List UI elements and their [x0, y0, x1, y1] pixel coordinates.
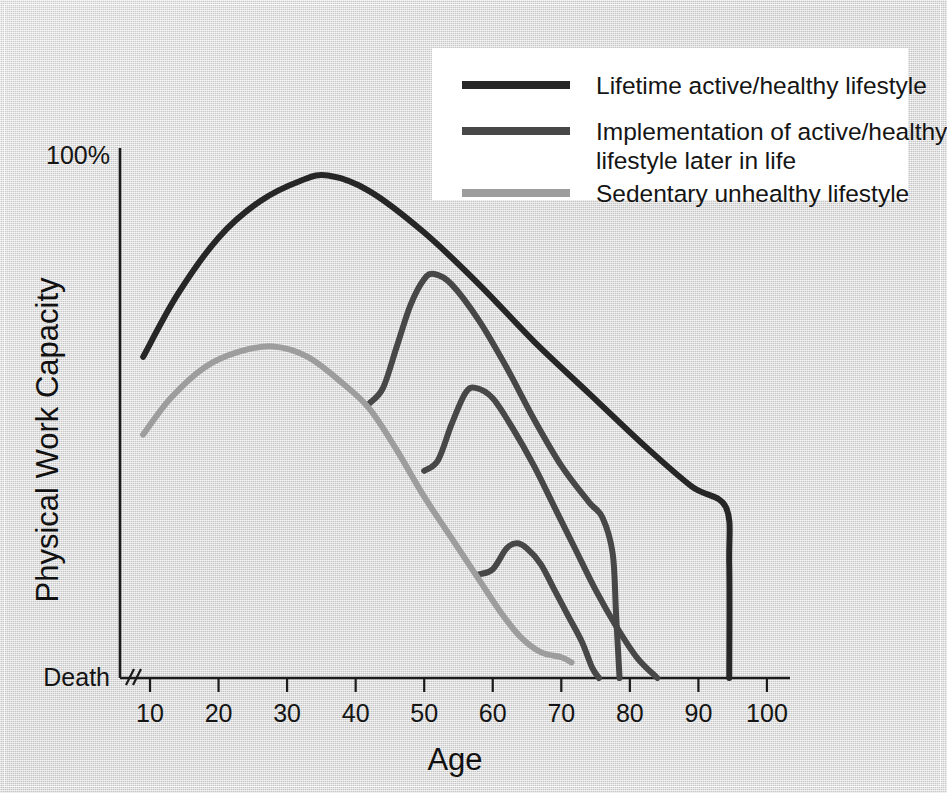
y-axis-top-label: 100%	[46, 141, 110, 169]
x-tick-label: 40	[342, 699, 370, 727]
legend-label: Lifetime active/healthy lifestyle	[596, 72, 927, 99]
x-tick-label: 100	[746, 699, 788, 727]
x-tick-label: 70	[547, 699, 575, 727]
y-axis-bottom-label: Death	[43, 663, 110, 691]
figure-root: Physical Work Capacity 100% Death 102030…	[0, 0, 947, 793]
x-tick-label: 80	[616, 699, 644, 727]
x-tick-label: 20	[205, 699, 233, 727]
chart-legend: Lifetime active/healthy lifestyleImpleme…	[432, 48, 947, 207]
y-axis-title: Physical Work Capacity	[30, 277, 65, 603]
series-line	[369, 274, 619, 678]
physical-work-capacity-chart: Physical Work Capacity 100% Death 102030…	[0, 0, 947, 793]
series-line	[143, 346, 571, 662]
x-axis-ticks: 102030405060708090100	[136, 678, 788, 727]
x-tick-label: 60	[479, 699, 507, 727]
series-layer	[143, 175, 730, 678]
legend-label: Sedentary unhealthy lifestyle	[596, 180, 909, 207]
x-axis-title: Age	[427, 742, 482, 777]
legend-label: Implementation of active/healthy	[596, 118, 947, 145]
legend-label: lifestyle later in life	[596, 147, 796, 174]
series-line	[143, 175, 730, 678]
x-tick-label: 30	[273, 699, 301, 727]
x-tick-label: 10	[136, 699, 164, 727]
x-tick-label: 90	[684, 699, 712, 727]
x-tick-label: 50	[410, 699, 438, 727]
